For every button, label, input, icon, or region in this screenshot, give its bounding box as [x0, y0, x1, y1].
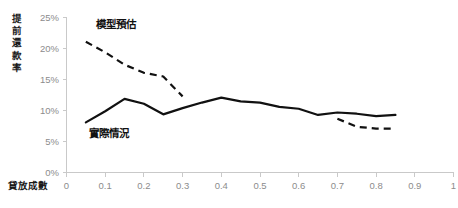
y-axis-title-char: 提	[12, 13, 22, 24]
chart-container: 0%5%10%15%20%25% 00.10.20.30.40.50.60.70…	[0, 0, 458, 208]
y-axis-title: 提前還款率	[12, 13, 22, 73]
y-tick-label: 25%	[40, 12, 60, 23]
x-tick-label: 0	[64, 180, 69, 191]
x-tick-label: 0.6	[292, 180, 305, 191]
y-tick-label: 0%	[45, 167, 59, 178]
y-axis-title-char: 前	[12, 25, 22, 36]
x-tick-label: 1	[451, 180, 456, 191]
y-axis-title-char: 還	[12, 37, 22, 48]
x-tick-label: 0.4	[215, 180, 228, 191]
y-axis-title-char: 率	[12, 62, 22, 73]
line-chart: 0%5%10%15%20%25% 00.10.20.30.40.50.60.70…	[0, 0, 458, 208]
x-tick-label: 0.1	[99, 180, 112, 191]
x-tick-label: 0.9	[408, 180, 421, 191]
y-tick-label: 10%	[40, 105, 60, 116]
y-axis-title-char: 款	[12, 50, 22, 61]
x-tick-label: 0.3	[176, 180, 189, 191]
y-tick-label: 5%	[45, 136, 59, 147]
chart-background	[0, 0, 458, 208]
y-tick-label: 15%	[40, 74, 60, 85]
series-annotation-1: 模型預估	[96, 18, 137, 30]
y-tick-label: 20%	[40, 43, 60, 54]
x-tick-label: 0.7	[331, 180, 344, 191]
x-axis-title: 貸放成數	[7, 180, 48, 191]
x-tick-label: 0.5	[253, 180, 266, 191]
series-annotation-2: 實際情況	[89, 127, 130, 139]
x-tick-label: 0.2	[137, 180, 150, 191]
x-tick-label: 0.8	[369, 180, 382, 191]
